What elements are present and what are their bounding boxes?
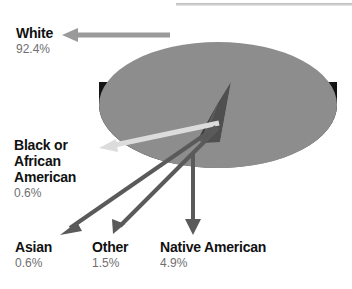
label-white-percent: 92.4% xyxy=(16,42,53,56)
arrow-white xyxy=(62,28,170,42)
label-black-african-american: Black or African American 0.6% xyxy=(14,137,76,200)
label-white: White 92.4% xyxy=(16,26,53,56)
label-black-line3: American xyxy=(14,169,76,185)
label-other-title: Other xyxy=(92,240,128,255)
label-native-title: Native American xyxy=(160,240,266,255)
label-other-percent: 1.5% xyxy=(92,256,128,270)
top-divider-rule xyxy=(176,3,352,6)
label-native-american: Native American 4.9% xyxy=(160,240,266,270)
label-asian-title: Asian xyxy=(15,240,52,255)
pie-svg xyxy=(99,42,337,176)
label-black-percent: 0.6% xyxy=(14,186,76,200)
label-white-title: White xyxy=(16,26,53,41)
label-asian-percent: 0.6% xyxy=(15,256,52,270)
pie-chart-figure: White 92.4% Black or African American 0.… xyxy=(0,0,352,289)
pie-graphic xyxy=(99,42,337,176)
label-black-line2: African xyxy=(14,153,76,169)
label-other: Other 1.5% xyxy=(92,240,128,270)
label-asian: Asian 0.6% xyxy=(15,240,52,270)
label-black-line1: Black or xyxy=(14,137,76,153)
label-native-percent: 4.9% xyxy=(160,256,266,270)
